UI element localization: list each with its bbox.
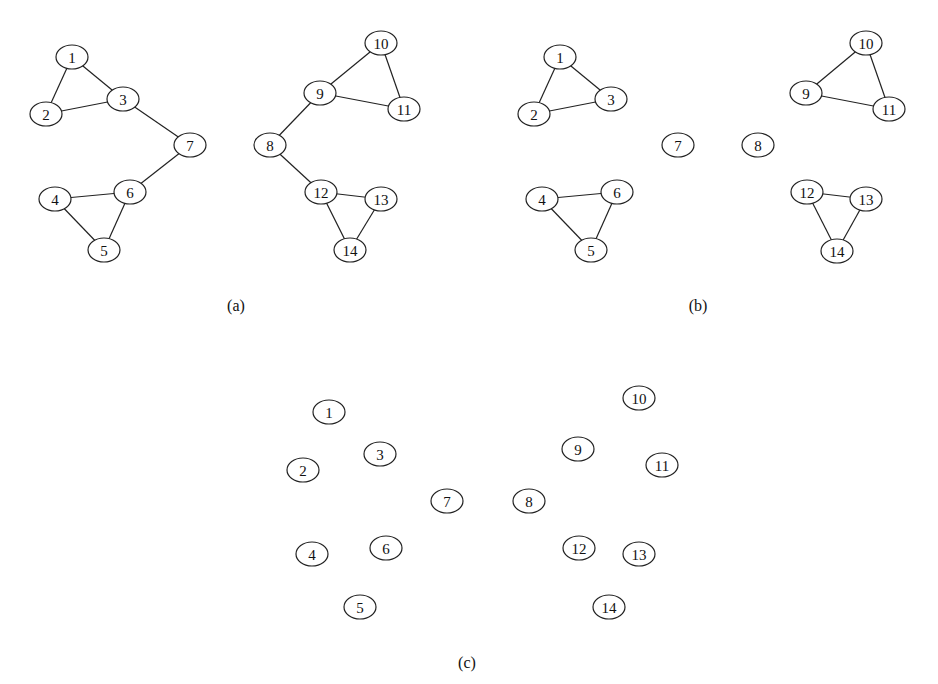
node-11: 11: [388, 97, 420, 121]
node-label: 1: [556, 50, 564, 66]
node-12: 12: [305, 180, 337, 204]
node-label: 5: [356, 600, 364, 616]
node-5: 5: [575, 238, 607, 262]
panel-caption: (a): [227, 297, 245, 315]
node-13: 13: [623, 542, 655, 566]
node-2: 2: [518, 102, 550, 126]
node-label: 12: [572, 541, 587, 557]
node-label: 3: [607, 92, 615, 108]
panel-a: 1234567891011121314(a): [30, 31, 420, 315]
node-label: 7: [443, 494, 451, 510]
node-label: 5: [100, 243, 108, 259]
node-6: 6: [601, 180, 633, 204]
node-3: 3: [364, 442, 396, 466]
node-label: 2: [530, 107, 538, 123]
node-9: 9: [562, 437, 594, 461]
node-13: 13: [850, 187, 882, 211]
node-8: 8: [254, 133, 286, 157]
node-label: 5: [587, 243, 595, 259]
node-5: 5: [88, 238, 120, 262]
node-label: 6: [382, 541, 390, 557]
node-1: 1: [313, 400, 345, 424]
node-label: 10: [632, 391, 647, 407]
node-label: 8: [266, 138, 274, 154]
node-label: 10: [859, 36, 874, 52]
node-4: 4: [296, 542, 328, 566]
node-4: 4: [39, 187, 71, 211]
panel-caption: (b): [689, 297, 708, 315]
node-2: 2: [287, 458, 319, 482]
node-14: 14: [334, 238, 366, 262]
node-9: 9: [790, 81, 822, 105]
node-5: 5: [344, 595, 376, 619]
node-14: 14: [821, 239, 853, 263]
node-label: 4: [538, 192, 546, 208]
panel-c: 1234567891011121314(c): [287, 386, 678, 672]
node-label: 14: [343, 243, 359, 259]
node-label: 8: [754, 138, 762, 154]
node-label: 14: [602, 600, 618, 616]
node-label: 11: [882, 102, 896, 118]
node-label: 9: [574, 442, 582, 458]
node-label: 4: [51, 192, 59, 208]
node-label: 6: [613, 185, 621, 201]
node-10: 10: [850, 31, 882, 55]
node-label: 7: [186, 138, 194, 154]
node-10: 10: [365, 31, 397, 55]
node-label: 4: [308, 547, 316, 563]
node-label: 13: [859, 192, 874, 208]
node-11: 11: [646, 453, 678, 477]
node-label: 10: [374, 36, 389, 52]
panel-b: 1234567891011121314(b): [518, 31, 905, 315]
node-6: 6: [370, 536, 402, 560]
node-1: 1: [544, 45, 576, 69]
node-3: 3: [595, 87, 627, 111]
node-8: 8: [513, 489, 545, 513]
node-label: 9: [316, 86, 324, 102]
node-label: 3: [119, 92, 127, 108]
node-label: 2: [299, 463, 307, 479]
node-label: 3: [376, 447, 384, 463]
node-label: 6: [126, 185, 134, 201]
graph-figure: 1234567891011121314(a)123456789101112131…: [0, 0, 938, 684]
node-3: 3: [107, 87, 139, 111]
node-9: 9: [304, 81, 336, 105]
node-14: 14: [593, 595, 625, 619]
node-13: 13: [365, 187, 397, 211]
node-label: 12: [800, 185, 815, 201]
node-label: 13: [632, 547, 647, 563]
node-7: 7: [174, 133, 206, 157]
node-7: 7: [662, 133, 694, 157]
node-label: 8: [525, 494, 533, 510]
node-12: 12: [791, 180, 823, 204]
node-label: 9: [802, 86, 810, 102]
node-label: 1: [325, 405, 333, 421]
node-label: 2: [42, 107, 50, 123]
node-8: 8: [742, 133, 774, 157]
node-label: 11: [655, 458, 669, 474]
node-1: 1: [56, 45, 88, 69]
node-12: 12: [563, 536, 595, 560]
node-10: 10: [623, 386, 655, 410]
node-label: 11: [397, 102, 411, 118]
node-label: 14: [830, 244, 846, 260]
node-label: 1: [68, 50, 76, 66]
node-2: 2: [30, 102, 62, 126]
node-label: 13: [374, 192, 389, 208]
node-6: 6: [114, 180, 146, 204]
node-11: 11: [873, 97, 905, 121]
node-label: 12: [314, 185, 329, 201]
node-label: 7: [674, 138, 682, 154]
node-7: 7: [431, 489, 463, 513]
panel-caption: (c): [458, 654, 476, 672]
node-4: 4: [526, 187, 558, 211]
